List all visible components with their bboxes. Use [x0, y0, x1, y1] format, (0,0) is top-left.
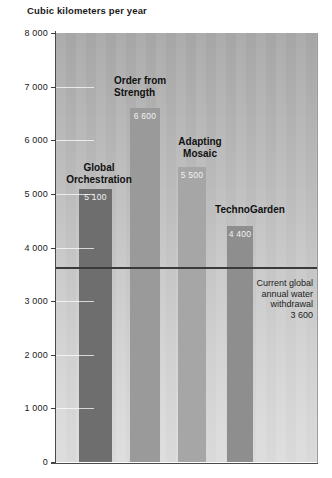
bar-value-technogarden: 4 400 [227, 229, 253, 239]
y-label-8000: 8 000 [24, 28, 48, 38]
y-gridline-5000 [56, 194, 94, 195]
y-label-7000: 7 000 [24, 82, 48, 92]
y-gridline-6000 [56, 140, 94, 141]
bar-label-global-orchestration: Global Orchestration [49, 162, 149, 185]
y-gridline-7000 [56, 87, 94, 88]
plot-area: 5 100 6 600 5 500 4 400 Current global a… [56, 33, 318, 462]
y-gridline-1000 [56, 408, 94, 409]
bar-label-technogarden: TechnoGarden [204, 204, 296, 216]
y-gridline-4000 [56, 248, 94, 249]
bar-label-adapting-mosaic: Adapting Mosaic [161, 136, 239, 159]
bar-technogarden[interactable]: 4 400 [227, 226, 253, 462]
bar-label-order-from-strength: Order from Strength [114, 75, 204, 98]
bar-value-order-from-strength: 6 600 [130, 111, 160, 121]
chart-title: Cubic kilometers per year [27, 5, 147, 16]
y-label-4000: 4 000 [24, 243, 48, 253]
y-label-5000: 5 000 [24, 189, 48, 199]
y-label-1000: 1 000 [24, 403, 48, 413]
y-tick-8000 [51, 33, 56, 34]
y-label-3000: 3 000 [24, 296, 48, 306]
y-gridline-3000 [56, 301, 94, 302]
threshold-annotation-label: Current global annual water withdrawal 3… [256, 278, 313, 320]
y-label-6000: 6 000 [24, 135, 48, 145]
bar-value-adapting-mosaic: 5 500 [178, 170, 206, 180]
y-gridline-2000 [56, 355, 94, 356]
y-label-0: 0 [43, 457, 48, 467]
bar-global-orchestration[interactable]: 5 100 [79, 189, 112, 463]
x-axis-line [51, 463, 318, 464]
y-label-2000: 2 000 [24, 350, 48, 360]
plot-right-border [317, 33, 318, 463]
threshold-line-current-withdrawal [56, 267, 318, 269]
y-tick-0 [51, 462, 56, 463]
bar-adapting-mosaic[interactable]: 5 500 [178, 167, 206, 462]
